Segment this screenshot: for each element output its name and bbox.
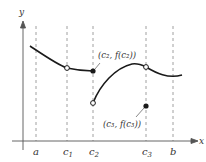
y-axis-arrow-icon	[21, 21, 26, 28]
axes	[12, 21, 198, 150]
open-point-c2	[91, 101, 96, 106]
leader-c3	[136, 108, 144, 117]
annotation-c3-point: (c₃, f(c₃))	[103, 119, 141, 129]
graph-canvas: y x a c1 c2 c3 b (c₂, f(c₂)) (c₃, f(c₃))	[0, 0, 206, 162]
function-graph: y x a c1 c2 c3 b (c₂, f(c₂)) (c₃, f(c₃))	[0, 0, 206, 162]
curve-right-segment	[93, 64, 182, 103]
curve-left-segment	[30, 46, 93, 71]
tick-label-c3: c3	[142, 146, 153, 159]
tick-label-a: a	[33, 146, 39, 157]
filled-point-c3	[143, 103, 148, 108]
tick-label-b: b	[170, 146, 176, 157]
open-point-c3	[144, 65, 149, 70]
annotation-c2-point: (c₂, f(c₂))	[98, 50, 136, 60]
x-axis-arrow-icon	[191, 139, 198, 144]
tick-label-c1: c1	[63, 146, 73, 159]
leader-c2	[95, 63, 100, 69]
y-axis-label: y	[18, 7, 25, 17]
open-point-c1	[65, 66, 70, 71]
tick-label-c2: c2	[89, 146, 100, 159]
filled-point-c2	[90, 68, 95, 73]
x-axis-label: x	[199, 136, 204, 146]
